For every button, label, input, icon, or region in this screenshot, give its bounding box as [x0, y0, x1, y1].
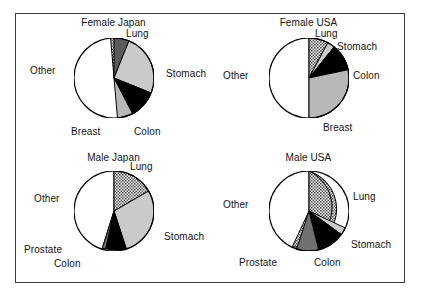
pie-svg-male-japan [74, 171, 154, 251]
panel-female-usa: Female USA [211, 14, 406, 149]
label-other-male-japan: Other [34, 193, 60, 204]
label-colon-female-japan: Colon [134, 126, 161, 137]
panel-title-female-usa: Female USA [211, 17, 406, 28]
label-lung-male-japan: Lung [130, 161, 153, 172]
pie-male-japan [74, 171, 154, 251]
label-stomach-male-japan: Stomach [164, 231, 204, 242]
label-colon-female-usa: Colon [353, 70, 380, 81]
label-colon-male-japan: Colon [54, 258, 81, 269]
pie-male-usa [269, 171, 349, 251]
panel-title-male-usa: Male USA [211, 152, 406, 163]
panel-title-female-japan: Female Japan [16, 17, 211, 28]
label-other-female-japan: Other [30, 65, 56, 76]
label-breast-female-usa: Breast [323, 122, 353, 133]
panel-male-japan: Male Japan [16, 149, 211, 284]
pie-svg-female-japan [74, 38, 154, 118]
panel-title-male-japan: Male Japan [16, 152, 211, 163]
label-colon-male-usa: Colon [314, 257, 341, 268]
label-other-female-usa: Other [223, 70, 249, 81]
label-breast-female-japan: Breast [71, 126, 101, 137]
label-lung-male-usa: Lung [353, 191, 376, 202]
pie-svg-male-usa [269, 171, 349, 251]
panel-female-japan: Female Japan [16, 14, 211, 149]
figure-frame: Female Japan [15, 13, 405, 283]
label-lung-female-usa: Lung [315, 28, 338, 39]
label-other-male-usa: Other [223, 199, 249, 210]
label-prostate-male-japan: Prostate [24, 244, 62, 255]
panel-male-usa: Male USA [211, 149, 406, 284]
slice-breast [309, 70, 349, 118]
pie-female-japan [74, 38, 154, 118]
label-lung-female-japan: Lung [126, 28, 149, 39]
label-stomach-male-usa: Stomach [351, 239, 391, 250]
label-stomach-female-japan: Stomach [166, 68, 206, 79]
label-prostate-male-usa: Prostate [239, 257, 277, 268]
label-stomach-female-usa: Stomach [337, 41, 377, 52]
